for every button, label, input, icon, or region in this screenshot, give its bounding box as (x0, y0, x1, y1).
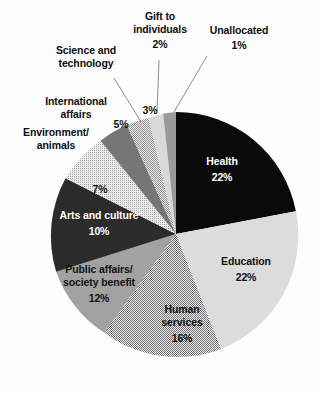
label-public-percent: 12% (44, 292, 154, 305)
label-international-percent-wrap: 5% (104, 118, 138, 131)
label-environment-percent-wrap: 7% (80, 183, 120, 196)
label-public-line2: society benefit (63, 276, 135, 288)
label-environment-line1: Environment/ (23, 126, 89, 138)
label-arts-culture: Arts and culture 10% (46, 209, 152, 238)
label-science-percent-wrap: 3% (133, 104, 167, 117)
pie-chart: Gift to individuals 2% Unallocated 1% Sc… (0, 0, 323, 393)
label-human-percent: 16% (150, 332, 214, 345)
label-unallocated: Unallocated 1% (196, 24, 282, 52)
label-science-line2: technology (58, 57, 113, 69)
label-science-line1: Science and (56, 44, 116, 56)
label-environment-line2: animals (37, 139, 75, 151)
label-education-percent: 22% (208, 271, 284, 284)
label-international-affairs: International affairs (24, 95, 128, 120)
label-health-percent: 22% (186, 171, 258, 184)
label-education-line1: Education (221, 255, 271, 267)
label-education: Education 22% (208, 255, 284, 284)
label-science-percent: 3% (143, 104, 158, 116)
label-gift-line1: Gift to (145, 10, 175, 22)
label-environment-animals: Environment/ animals (4, 126, 108, 151)
label-public-affairs: Public affairs/ society benefit 12% (44, 263, 154, 305)
label-public-line1: Public affairs/ (65, 263, 132, 275)
label-unallocated-percent: 1% (196, 39, 282, 52)
label-gift-line2: individuals (133, 23, 187, 35)
label-science-technology: Science and technology (36, 44, 136, 69)
label-arts-line1: Arts and culture (60, 209, 139, 221)
label-international-line1: International (45, 95, 107, 107)
label-human-line2: services (161, 316, 202, 328)
label-arts-percent: 10% (46, 225, 152, 238)
label-environment-percent: 7% (93, 183, 108, 195)
leader-line-unallocated (174, 56, 207, 112)
label-unallocated-line1: Unallocated (210, 24, 268, 36)
label-human-line1: Human (164, 303, 199, 315)
label-international-line2: affairs (61, 108, 92, 120)
label-international-percent: 5% (114, 118, 129, 130)
label-health: Health 22% (186, 155, 258, 184)
label-human-services: Human services 16% (150, 303, 214, 345)
label-health-line1: Health (206, 155, 238, 167)
